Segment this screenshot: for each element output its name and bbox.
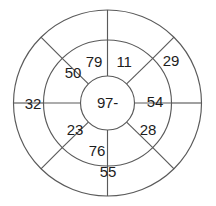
- outer-cell-55: 55: [100, 163, 116, 180]
- inner-cell-54: 54: [147, 93, 163, 110]
- hub-value: 97-: [97, 94, 118, 111]
- inner-cell-76: 76: [89, 142, 105, 159]
- wheel-diagram: 97- 11 54 28 76 23 50 79 29 55 32: [0, 0, 216, 206]
- wheel-svg: 97- 11 54 28 76 23 50 79 29 55 32: [0, 0, 216, 206]
- inner-cell-23: 23: [67, 121, 83, 138]
- outer-cell-29: 29: [163, 52, 179, 69]
- inner-cell-28: 28: [140, 121, 156, 138]
- inner-cell-11: 11: [116, 53, 131, 70]
- inner-cell-50: 50: [65, 64, 81, 81]
- inner-cell-79: 79: [86, 53, 102, 70]
- outer-cell-32: 32: [25, 95, 41, 112]
